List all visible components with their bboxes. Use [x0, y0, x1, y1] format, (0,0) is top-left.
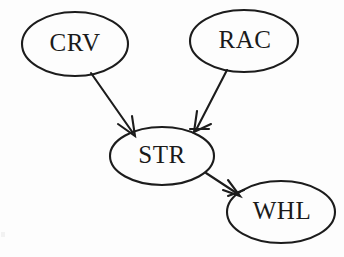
diagram-canvas: CRV RAC STR WHL	[0, 0, 344, 257]
directed-graph: CRV RAC STR WHL	[0, 0, 344, 257]
node-whl-label: WHL	[253, 197, 312, 224]
node-rac-label: RAC	[218, 26, 271, 53]
node-str-label: STR	[138, 141, 186, 168]
scan-artifact-speck	[1, 232, 5, 237]
node-crv-label: CRV	[49, 29, 100, 56]
